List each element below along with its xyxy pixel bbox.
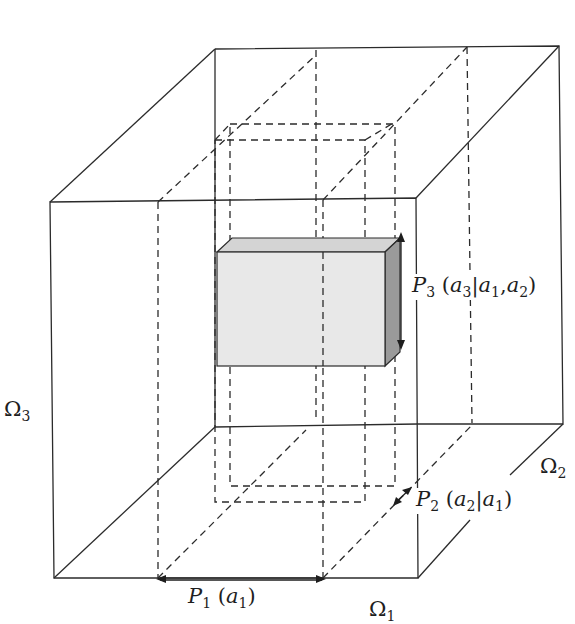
p2-depth-tl [215, 124, 230, 140]
omega2-label: Ω2 [538, 455, 568, 481]
omega3-label: Ω3 [2, 398, 32, 424]
box-top-face [217, 238, 400, 252]
back-bottom-edge [215, 424, 418, 427]
omega1-label: Ω1 [367, 598, 397, 624]
p2-label: P2 (a2|a1) [414, 488, 514, 514]
depth-edge-bottom-left [54, 427, 215, 578]
p2-depth-tr [365, 122, 395, 140]
p1-back-right [467, 47, 472, 423]
p1-bottom-left-depth [158, 430, 306, 578]
p3-label: P3 (a3|a1,a2) [410, 274, 538, 300]
box-side-face [385, 238, 400, 366]
depth-edge-top-left [50, 49, 215, 202]
p1-top-left-depth [158, 55, 316, 202]
depth-edge-bottom-right-a [418, 520, 470, 578]
p1-arrow [156, 575, 326, 583]
p1-label: P1 (a1) [186, 585, 258, 611]
box-front-face [217, 252, 385, 366]
depth-edge-top-right [416, 46, 559, 198]
p3-box [217, 238, 400, 366]
p2-arrow [393, 487, 412, 506]
back-face-edges [215, 46, 563, 424]
